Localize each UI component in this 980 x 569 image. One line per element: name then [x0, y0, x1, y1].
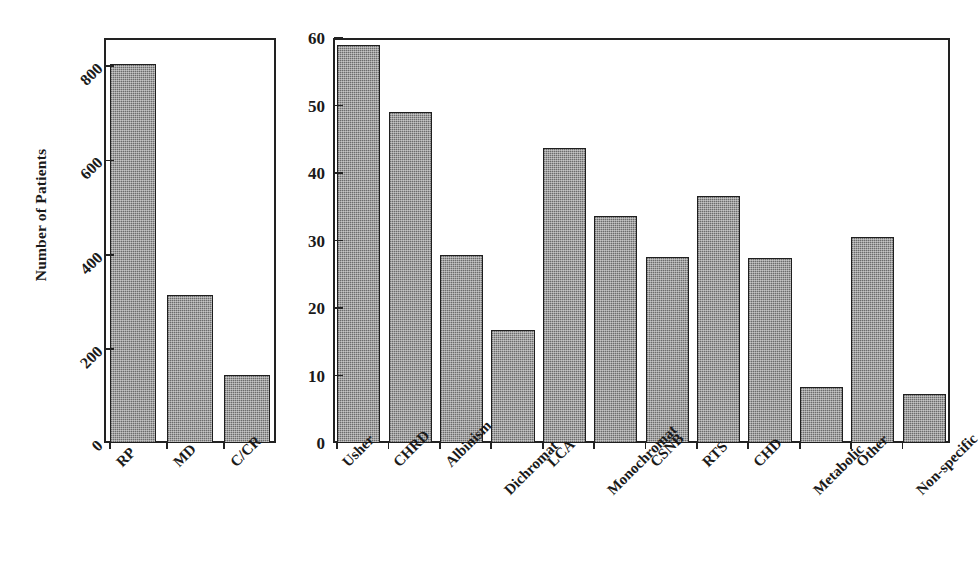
- bar: [224, 375, 270, 443]
- y-tick-label: 20: [308, 300, 325, 317]
- y-tick: [105, 65, 114, 67]
- y-tick: [334, 307, 343, 309]
- x-tick: [336, 443, 338, 449]
- x-tick: [593, 443, 595, 449]
- y-tick-label: 60: [308, 30, 325, 47]
- bar: [440, 255, 483, 443]
- bar: [337, 45, 380, 443]
- bar: [389, 112, 432, 443]
- x-tick: [799, 443, 801, 449]
- x-tick-label: Metabolic: [811, 442, 867, 498]
- x-tick-label: RTS: [699, 439, 730, 470]
- y-tick-label: 40: [308, 165, 325, 182]
- y-tick-label: 600: [77, 155, 105, 183]
- bar: [748, 258, 791, 443]
- x-tick: [166, 443, 168, 449]
- bar: [646, 257, 689, 443]
- y-tick-label: 10: [308, 367, 325, 384]
- right-bar-chart-panel: [333, 38, 950, 443]
- bar: [543, 148, 586, 443]
- y-tick: [105, 254, 114, 256]
- x-tick: [109, 443, 111, 449]
- x-tick-label: RP: [113, 445, 138, 470]
- y-tick: [334, 240, 343, 242]
- right-plot-area: [333, 38, 950, 443]
- bar: [851, 237, 894, 443]
- x-tick-label: MD: [171, 442, 199, 470]
- y-axis-title: Number of Patients: [32, 149, 50, 281]
- y-tick: [334, 172, 343, 174]
- x-tick: [902, 443, 904, 449]
- bar: [800, 387, 843, 443]
- bar: [697, 196, 740, 443]
- y-tick: [334, 105, 343, 107]
- left-bar-chart-panel: [104, 38, 276, 443]
- y-tick: [105, 160, 114, 162]
- x-tick: [696, 443, 698, 449]
- y-tick-label: 400: [77, 249, 105, 277]
- bar: [903, 394, 946, 443]
- y-tick: [105, 348, 114, 350]
- x-tick: [388, 443, 390, 449]
- y-tick-label: 800: [77, 61, 105, 89]
- y-tick-label: 30: [308, 232, 325, 249]
- y-tick: [334, 37, 343, 39]
- bar: [167, 295, 213, 443]
- y-tick-label: 200: [77, 343, 105, 371]
- y-tick-label: 0: [317, 435, 326, 452]
- bar: [110, 64, 156, 443]
- left-plot-area: [104, 38, 276, 443]
- bar: [491, 330, 534, 443]
- x-tick: [439, 443, 441, 449]
- x-tick: [490, 443, 492, 449]
- x-tick: [223, 443, 225, 449]
- x-tick-label: Dichromat: [502, 438, 561, 497]
- y-tick: [334, 375, 343, 377]
- x-tick: [747, 443, 749, 449]
- bar: [594, 216, 637, 443]
- y-tick-label: 50: [308, 97, 325, 114]
